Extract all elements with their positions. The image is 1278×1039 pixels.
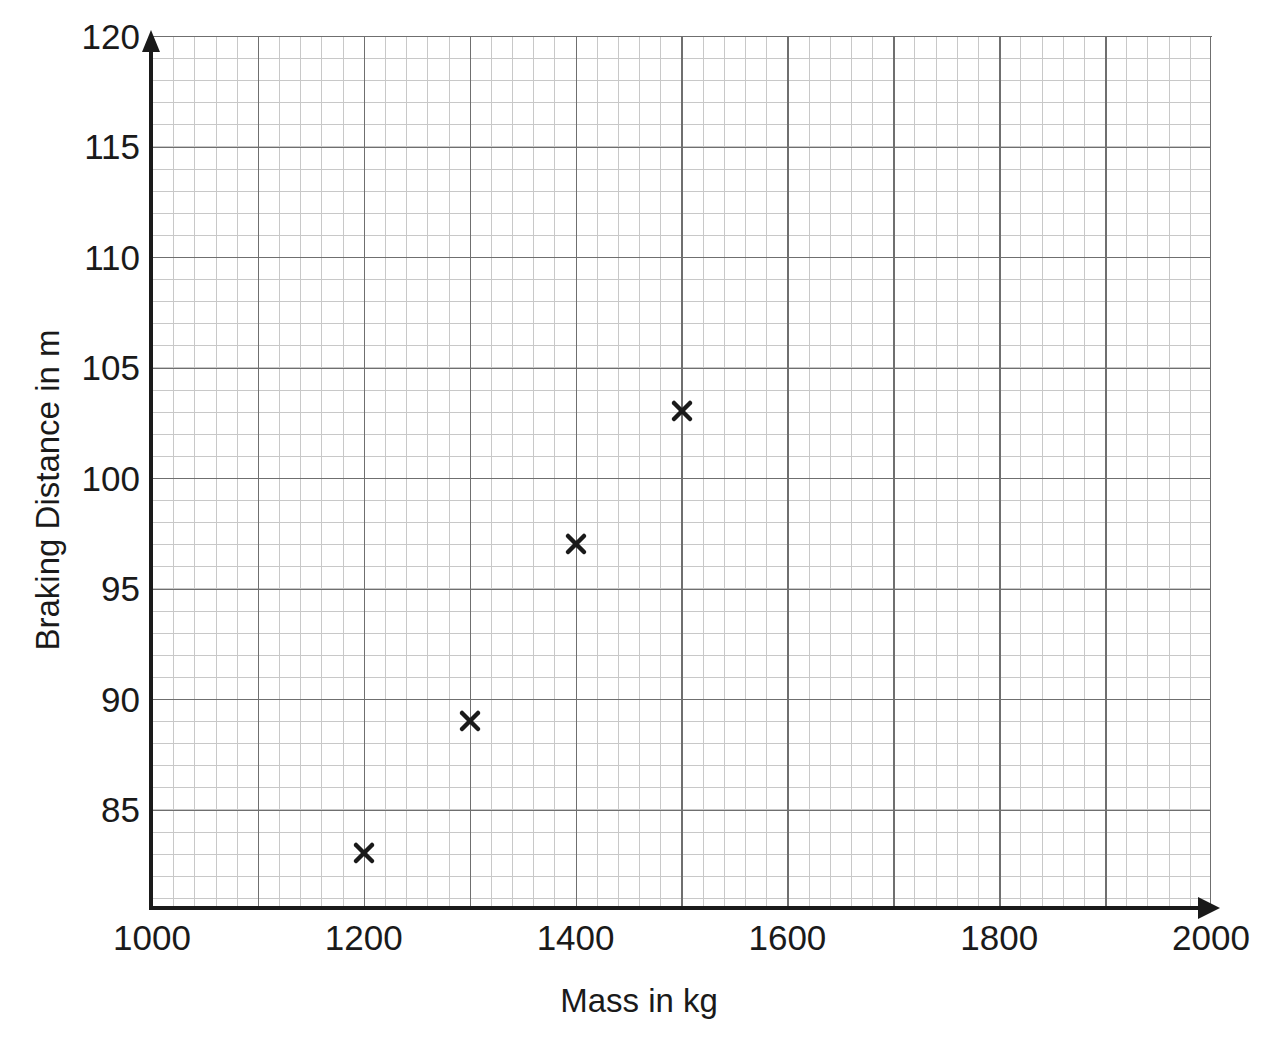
- y-tick-label-95: 95: [0, 571, 140, 606]
- x-tick-label-1400: 1400: [537, 920, 615, 955]
- x-axis-line: [149, 906, 1206, 910]
- y-tick-label-115: 115: [0, 129, 140, 164]
- y-tick-label-90: 90: [0, 681, 140, 716]
- y-axis-title: Braking Distance in m: [29, 330, 67, 651]
- y-tick-label-120: 120: [0, 18, 140, 53]
- x-tick-label-2000: 2000: [1172, 920, 1250, 955]
- scatter-chart: 859095100105110115120 100012001400160018…: [0, 0, 1278, 1039]
- y-tick-label-110: 110: [0, 239, 140, 274]
- grid-right-edge: [1210, 36, 1211, 909]
- y-axis-arrowhead-icon: [142, 30, 160, 52]
- y-tick-label-85: 85: [0, 792, 140, 827]
- x-tick-label-1000: 1000: [113, 920, 191, 955]
- x-axis-arrowhead-icon: [1198, 897, 1220, 919]
- x-tick-label-1800: 1800: [960, 920, 1038, 955]
- x-tick-label-1600: 1600: [748, 920, 826, 955]
- data-point-marker: [455, 706, 485, 736]
- data-point-marker: [667, 396, 697, 426]
- x-axis-title: Mass in kg: [0, 982, 1278, 1020]
- y-axis-line: [149, 47, 153, 910]
- data-point-marker: [561, 529, 591, 559]
- y-tick-label-100: 100: [0, 460, 140, 495]
- plot-grid-area: [152, 36, 1211, 908]
- y-tick-label-105: 105: [0, 350, 140, 385]
- grid-top-edge: [152, 36, 1212, 37]
- data-point-marker: [349, 838, 379, 868]
- x-tick-label-1200: 1200: [325, 920, 403, 955]
